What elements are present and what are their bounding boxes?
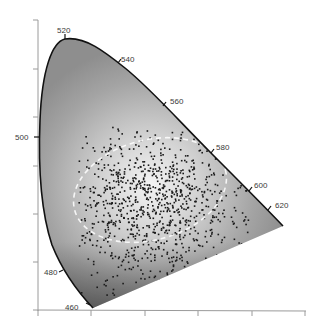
gamut-area <box>0 0 322 336</box>
label-560: 560 <box>170 97 184 106</box>
label-580: 580 <box>216 143 230 152</box>
label-620: 620 <box>275 201 289 210</box>
label-460: 460 <box>65 303 79 312</box>
label-520: 520 <box>57 26 71 35</box>
chromaticity-diagram: 460 480 500 520 540 560 580 600 620 <box>0 0 322 336</box>
label-480: 480 <box>44 268 58 277</box>
label-500: 500 <box>15 133 29 142</box>
label-600: 600 <box>254 181 268 190</box>
label-540: 540 <box>121 55 135 64</box>
y-axis <box>33 20 38 311</box>
